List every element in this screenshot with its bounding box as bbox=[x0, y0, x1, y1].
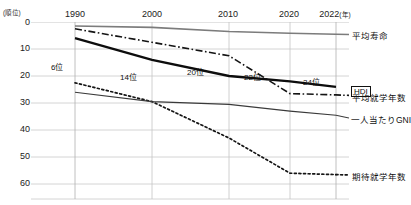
y-tick-10: 10 bbox=[2, 44, 30, 53]
series-label-gni-per-capita: 一人当たりGNI bbox=[351, 113, 411, 125]
series-line-mean-years-schooling bbox=[75, 29, 336, 95]
x-axis-unit-label: (年) bbox=[339, 11, 350, 18]
y-tick-40: 40 bbox=[2, 125, 30, 134]
y-tick-20: 20 bbox=[2, 71, 30, 80]
annotation-rank-2016: 22位 bbox=[244, 71, 261, 82]
x-tick-2020: 2020 bbox=[279, 9, 299, 19]
series-line-gni-per-capita bbox=[75, 92, 336, 115]
y-tick-50: 50 bbox=[2, 152, 30, 161]
series-label-mean-years-schooling: 平均就学年数 bbox=[352, 91, 406, 103]
gridlines-horizontal bbox=[31, 22, 349, 199]
annotation-rank-2000: 14位 bbox=[120, 71, 137, 82]
y-axis-tick-labels: 0 10 20 30 40 50 60 bbox=[0, 0, 30, 205]
x-tick-2022: 2022(年) bbox=[319, 9, 350, 19]
x-tick-2010: 2010 bbox=[218, 9, 238, 19]
annotation-rank-2022: 24位 bbox=[303, 76, 320, 87]
series-label-expected-schooling: 期待就学年数 bbox=[352, 170, 406, 182]
chart-svg bbox=[31, 22, 349, 200]
annotation-rank-1990: 6位 bbox=[51, 61, 63, 72]
series-line-life-expectancy bbox=[75, 26, 336, 34]
series-line-hdi bbox=[75, 38, 336, 87]
x-tick-2000: 2000 bbox=[142, 9, 162, 19]
annotation-rank-2010: 20位 bbox=[187, 66, 204, 77]
y-tick-30: 30 bbox=[2, 98, 30, 107]
y-tick-60: 60 bbox=[2, 179, 30, 188]
plot-area: 6位 14位 20位 22位 24位 bbox=[31, 22, 349, 200]
series-leader-lines bbox=[336, 34, 349, 175]
y-tick-0: 0 bbox=[2, 18, 30, 27]
x-tick-1990: 1990 bbox=[65, 9, 85, 19]
x-tick-2022-value: 2022 bbox=[319, 9, 339, 19]
series-label-life-expectancy: 平均寿命 bbox=[352, 29, 388, 41]
